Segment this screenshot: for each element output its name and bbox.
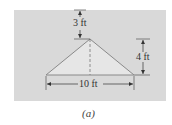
base-width-label: 10 ft xyxy=(79,79,98,89)
figure-caption: (a) xyxy=(82,107,95,119)
side-height-label: 4 ft xyxy=(136,52,150,62)
apex-height-label: 3 ft xyxy=(73,18,87,28)
